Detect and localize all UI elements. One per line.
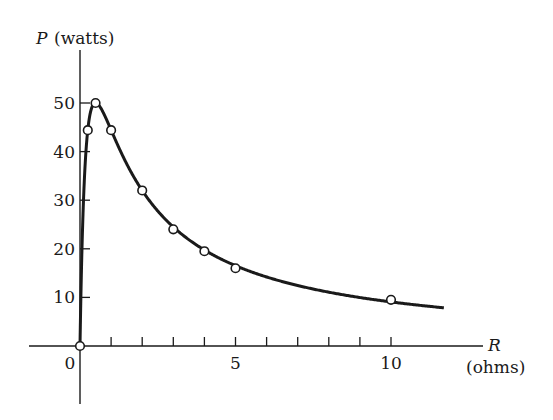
data-point bbox=[200, 247, 209, 256]
x-tick-label: 5 bbox=[230, 353, 241, 373]
y-tick-label: 10 bbox=[53, 287, 75, 307]
power-curve bbox=[80, 103, 444, 346]
data-points bbox=[76, 99, 396, 351]
data-point bbox=[387, 296, 396, 305]
data-point bbox=[76, 342, 85, 351]
y-tick-label: 50 bbox=[53, 93, 75, 113]
data-point bbox=[231, 264, 240, 273]
data-point bbox=[107, 126, 116, 135]
data-point bbox=[91, 99, 100, 108]
data-point bbox=[83, 126, 92, 135]
x-tick-label: 10 bbox=[380, 353, 402, 373]
power-vs-resistance-chart: 10203040500510 P (watts) R (ohms) bbox=[0, 0, 553, 420]
x-tick-label: 0 bbox=[65, 353, 76, 373]
y-axis-unit: (watts) bbox=[54, 28, 114, 48]
tick-labels: 10203040500510 bbox=[53, 93, 401, 373]
x-ticks bbox=[111, 337, 391, 346]
y-axis-variable: P bbox=[35, 28, 48, 48]
y-tick-label: 40 bbox=[53, 142, 75, 162]
x-axis-unit: (ohms) bbox=[466, 357, 525, 377]
x-axis-variable: R bbox=[487, 335, 501, 355]
data-point bbox=[138, 186, 147, 195]
y-tick-label: 20 bbox=[53, 239, 75, 259]
y-tick-label: 30 bbox=[53, 190, 75, 210]
data-point bbox=[169, 225, 178, 234]
